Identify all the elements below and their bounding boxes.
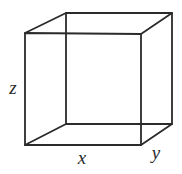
cube-front-face	[25, 33, 141, 145]
cube-figure: z x y	[0, 0, 182, 174]
label-y: y	[150, 142, 161, 163]
cube-edge-top-right	[141, 13, 172, 34]
cube-edge-top-left	[25, 13, 66, 33]
label-x: x	[77, 147, 87, 168]
cube-drawing: z x y	[0, 0, 182, 174]
cube-back-face	[66, 13, 172, 124]
label-z: z	[8, 77, 17, 98]
cube-edge-bottom-left	[25, 124, 66, 145]
